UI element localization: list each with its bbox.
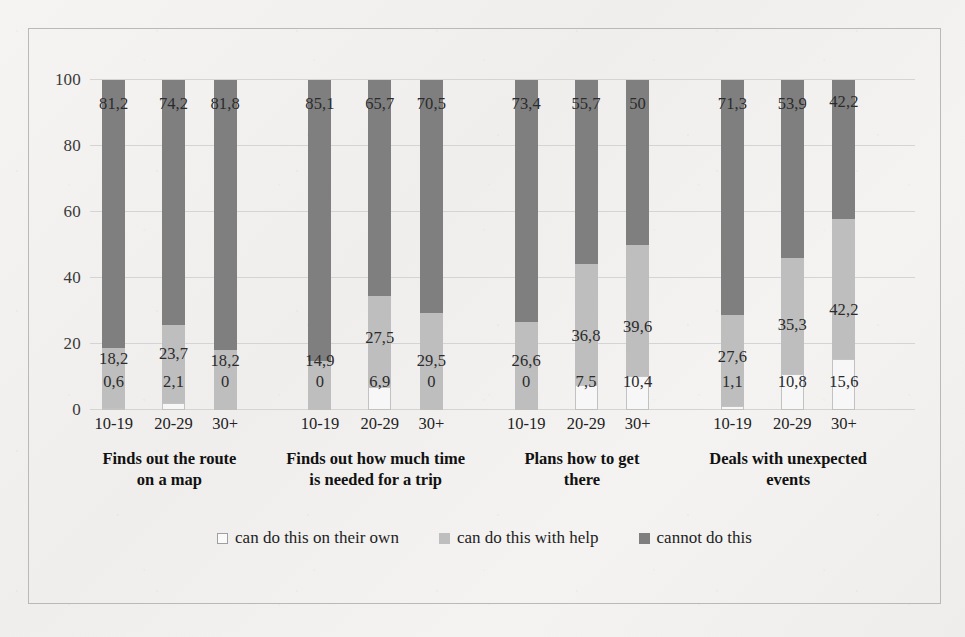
bar-segment-own[interactable] — [102, 408, 125, 410]
x-axis-age-label: 30+ — [212, 414, 238, 434]
x-axis-age-label: 30+ — [831, 414, 857, 434]
bar-segment-help[interactable] — [832, 219, 855, 358]
category-title-line: on a map — [62, 469, 277, 490]
value-label-own: 0 — [522, 372, 530, 392]
legend-item[interactable]: can do this on their own — [217, 528, 399, 548]
category-title-line: there — [474, 469, 689, 490]
bar-segment-own[interactable] — [721, 406, 744, 410]
category-title: Finds out how much timeis needed for a t… — [268, 448, 483, 490]
chart-legend: can do this on their owncan do this with… — [28, 528, 941, 548]
bar-segment-own[interactable] — [162, 403, 185, 410]
bar-segment-cannot[interactable] — [308, 80, 331, 361]
stacked-bar[interactable]: 029,570,5 — [420, 80, 443, 410]
category-title-line: Finds out how much time — [268, 448, 483, 469]
legend-label: cannot do this — [657, 528, 752, 548]
bar-group: 026,673,47,536,855,710,439,650 — [503, 80, 709, 410]
value-label-help: 35,3 — [778, 315, 807, 335]
stacked-bar[interactable]: 6,927,565,7 — [368, 80, 391, 410]
bar-segment-cannot[interactable] — [515, 80, 538, 322]
bar-group: 1,127,671,310,835,353,915,642,242,2 — [709, 80, 915, 410]
stacked-bar[interactable]: 10,835,353,9 — [781, 80, 804, 410]
category-title: Plans how to getthere — [474, 448, 689, 490]
y-axis-tick-label: 0 — [72, 400, 81, 420]
value-label-help: 18,2 — [210, 351, 239, 371]
legend-swatch-own-icon — [217, 533, 228, 544]
value-label-help: 27,5 — [365, 328, 394, 348]
legend-swatch-help-icon — [439, 533, 450, 544]
stacked-bar[interactable]: 026,673,4 — [515, 80, 538, 410]
value-label-own: 2,1 — [163, 372, 184, 392]
y-axis-tick-label: 80 — [64, 136, 81, 156]
legend-label: can do this with help — [457, 528, 599, 548]
stacked-bar[interactable]: 2,123,774,2 — [162, 80, 185, 410]
value-label-own: 15,6 — [829, 372, 858, 392]
bar-group: 014,985,16,927,565,7029,570,5 — [296, 80, 502, 410]
y-axis-tick-label: 60 — [64, 202, 81, 222]
x-axis-age-label: 10-19 — [94, 414, 133, 434]
value-label-own: 0 — [316, 372, 324, 392]
value-label-help: 23,7 — [159, 344, 188, 364]
x-axis-age-label: 20-29 — [154, 414, 193, 434]
value-label-help: 14,9 — [305, 351, 334, 371]
value-label-cannot: 81,8 — [210, 94, 239, 114]
value-label-cannot: 70,5 — [417, 94, 446, 114]
value-label-help: 27,6 — [718, 347, 747, 367]
category-title-line: Finds out the route — [62, 448, 277, 469]
stacked-bar[interactable]: 15,642,242,2 — [832, 80, 855, 410]
value-label-cannot: 65,7 — [365, 94, 394, 114]
category-axis: 10-1920-2930+10-1920-2930+10-1920-2930+1… — [90, 414, 915, 440]
x-axis-age-label: 20-29 — [567, 414, 606, 434]
value-label-own: 0,6 — [103, 372, 124, 392]
legend-swatch-cannot-icon — [639, 533, 650, 544]
stacked-bar[interactable]: 10,439,650 — [626, 80, 649, 410]
value-label-cannot: 53,9 — [778, 94, 807, 114]
x-axis-age-label: 30+ — [418, 414, 444, 434]
value-label-cannot: 71,3 — [718, 94, 747, 114]
x-axis-age-label: 20-29 — [361, 414, 400, 434]
stacked-bar[interactable]: 0,618,281,2 — [102, 80, 125, 410]
category-title-line: Plans how to get — [474, 448, 689, 469]
stacked-bar[interactable]: 014,985,1 — [308, 80, 331, 410]
category-title-line: events — [681, 469, 896, 490]
value-label-own: 10,4 — [623, 372, 652, 392]
y-axis-tick-label: 100 — [55, 70, 81, 90]
category-title: Finds out the routeon a map — [62, 448, 277, 490]
bar-segment-cannot[interactable] — [420, 80, 443, 313]
value-label-own: 0 — [427, 372, 435, 392]
value-label-help: 29,5 — [417, 351, 446, 371]
value-label-own: 6,9 — [369, 372, 390, 392]
bar-segment-cannot[interactable] — [721, 80, 744, 315]
bar-segment-cannot[interactable] — [162, 80, 185, 325]
bar-segment-help[interactable] — [575, 264, 598, 385]
bar-segment-cannot[interactable] — [214, 80, 237, 350]
x-axis-age-label: 10-19 — [507, 414, 546, 434]
value-label-help: 18,2 — [99, 349, 128, 369]
bar-segment-help[interactable] — [626, 245, 649, 376]
x-axis-age-label: 30+ — [625, 414, 651, 434]
legend-label: can do this on their own — [235, 528, 399, 548]
stacked-bar[interactable]: 7,536,855,7 — [575, 80, 598, 410]
category-title-line: Deals with unexpected — [681, 448, 896, 469]
bar-group: 0,618,281,22,123,774,2018,281,8 — [90, 80, 296, 410]
plot-area: 0204060801000,618,281,22,123,774,2018,28… — [90, 80, 915, 410]
value-label-help: 36,8 — [571, 326, 600, 346]
y-axis-tick-label: 20 — [64, 334, 81, 354]
value-label-cannot: 73,4 — [512, 94, 541, 114]
value-label-own: 0 — [221, 372, 229, 392]
stacked-bar[interactable]: 1,127,671,3 — [721, 80, 744, 410]
stacked-bar[interactable]: 018,281,8 — [214, 80, 237, 410]
chart-container: 0204060801000,618,281,22,123,774,2018,28… — [28, 28, 941, 604]
value-label-cannot: 85,1 — [305, 94, 334, 114]
legend-item[interactable]: cannot do this — [639, 528, 752, 548]
bar-segment-cannot[interactable] — [102, 80, 125, 348]
legend-item[interactable]: can do this with help — [439, 528, 599, 548]
value-label-own: 7,5 — [576, 372, 597, 392]
value-label-cannot: 50 — [629, 94, 646, 114]
value-label-cannot: 55,7 — [571, 94, 600, 114]
value-label-cannot: 74,2 — [159, 94, 188, 114]
category-title: Deals with unexpectedevents — [681, 448, 896, 490]
x-axis-age-label: 10-19 — [301, 414, 340, 434]
category-title-line: is needed for a trip — [268, 469, 483, 490]
value-label-help: 26,6 — [512, 351, 541, 371]
y-axis-tick-label: 40 — [64, 268, 81, 288]
